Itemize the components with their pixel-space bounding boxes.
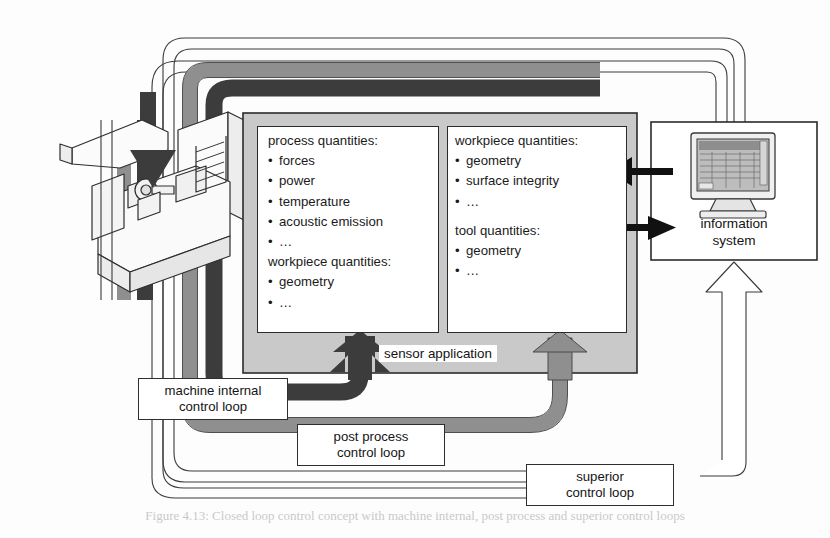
sensor-application-label: sensor application xyxy=(379,345,497,362)
arrow-up-white-icon xyxy=(700,262,762,476)
item-label: acoustic emission xyxy=(279,214,383,229)
left-group-0-item-3: •acoustic emission xyxy=(268,212,391,232)
item-label: power xyxy=(279,173,315,188)
group-spacer xyxy=(455,212,578,221)
information-system-label: information system xyxy=(651,215,817,249)
left-group-1-item-1: •… xyxy=(268,293,391,313)
right-group-0-item-0: •geometry xyxy=(455,151,578,171)
item-label: geometry xyxy=(279,274,334,289)
item-label: … xyxy=(279,234,292,249)
item-label: surface integrity xyxy=(466,173,559,188)
left-group-0-item-0: •forces xyxy=(268,151,391,171)
right-group-0-item-1: •surface integrity xyxy=(455,171,578,191)
figure-canvas: process quantities: •forces •power •temp… xyxy=(0,0,830,538)
right-group-1-item-0: •geometry xyxy=(455,241,578,261)
item-label: … xyxy=(466,194,479,209)
left-quantities-list: process quantities: •forces •power •temp… xyxy=(268,131,391,313)
item-label: temperature xyxy=(279,194,350,209)
superior-control-loop-label[interactable]: superior control loop xyxy=(526,464,674,506)
item-label: geometry xyxy=(466,153,521,168)
left-group-1-heading: workpiece quantities: xyxy=(268,252,391,272)
item-label: geometry xyxy=(466,243,521,258)
left-group-1-item-0: •geometry xyxy=(268,272,391,292)
machine-internal-line2: control loop xyxy=(165,399,262,416)
post-process-line1: post process xyxy=(334,429,409,446)
machine-internal-control-loop-label[interactable]: machine internal control loop xyxy=(138,378,288,420)
right-group-0-item-2: •… xyxy=(455,192,578,212)
left-group-0-heading: process quantities: xyxy=(268,131,391,151)
left-group-0-item-1: •power xyxy=(268,171,391,191)
left-group-0-item-2: •temperature xyxy=(268,192,391,212)
post-process-control-loop-label[interactable]: post process control loop xyxy=(297,424,445,466)
superior-line1: superior xyxy=(566,469,634,486)
post-process-line2: control loop xyxy=(334,445,409,462)
item-label: … xyxy=(279,295,292,310)
superior-loop-down-right xyxy=(707,38,745,122)
right-group-1-item-1: •… xyxy=(455,261,578,281)
superior-line2: control loop xyxy=(566,485,634,502)
figure-caption: Figure 4.13: Closed loop control concept… xyxy=(0,508,830,524)
left-group-0-item-4: •… xyxy=(268,232,391,252)
machine-internal-line1: machine internal xyxy=(165,383,262,400)
information-system-line1: information xyxy=(651,215,817,232)
item-label: … xyxy=(466,263,479,278)
item-label: forces xyxy=(279,153,315,168)
right-quantities-list: workpiece quantities: •geometry •surface… xyxy=(455,131,578,281)
right-group-1-heading: tool quantities: xyxy=(455,221,578,241)
information-system-line2: system xyxy=(651,232,817,249)
right-group-0-heading: workpiece quantities: xyxy=(455,131,578,151)
